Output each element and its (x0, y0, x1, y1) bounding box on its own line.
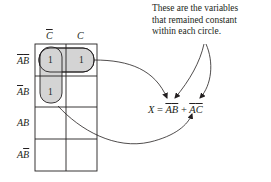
row-header-b: B (23, 117, 29, 128)
row-header-b: B (23, 55, 29, 66)
row-header-abar-bbar: AB (17, 56, 29, 66)
column-header-c-text: C (77, 30, 84, 41)
kmap-cell-1-0: 1 (48, 87, 53, 97)
kmap-cell-0-0: 1 (48, 55, 53, 65)
row-header-abar-b: AB (17, 87, 29, 97)
expression-lhs: X (148, 104, 154, 115)
kmap-diagram (0, 0, 271, 182)
column-header-c: C (77, 31, 84, 41)
term2-c-bar: C (196, 104, 203, 115)
term1-b-bar: B (172, 104, 178, 115)
row-header-a-bbar: AB (17, 150, 29, 160)
kmap-cell-0-1: 1 (79, 55, 84, 65)
column-header-c-bar: C (46, 31, 53, 41)
arrow-note-to-term1 (175, 44, 204, 98)
expression-plus: + (181, 104, 187, 115)
boolean-expression: X = AB + AC (148, 104, 203, 115)
row-header-b: B (23, 86, 29, 97)
row-header-a-b: AB (17, 118, 29, 128)
arrow-row-group-to-term1 (94, 60, 167, 98)
expression-equals: = (157, 104, 163, 115)
column-header-c-bar-text: C (46, 30, 53, 41)
row-header-b: B (23, 149, 29, 160)
